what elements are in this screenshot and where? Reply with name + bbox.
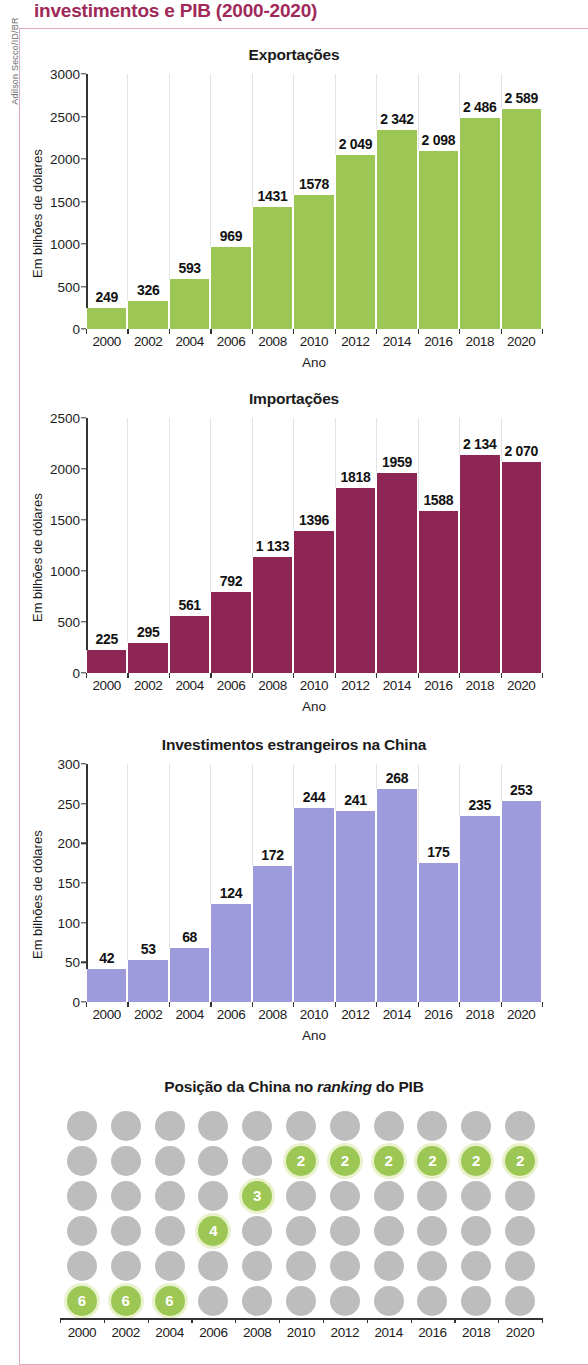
- rank-dot: [111, 1181, 141, 1211]
- x-axis-tick-mark: [127, 329, 128, 334]
- x-axis-tick-label: 2002: [134, 334, 162, 349]
- x-axis-tick-mark: [542, 673, 543, 678]
- y-axis-title: Em bilhões de dólares: [30, 830, 45, 959]
- x-axis-tick-label: 2004: [175, 678, 203, 693]
- bar-value-label: 593: [178, 260, 200, 276]
- y-axis-tick-label: 0: [72, 666, 80, 681]
- chart-panel-investimentos: Investimentos estrangeiros na China 0501…: [0, 736, 588, 1056]
- y-axis-tick-label: 1000: [50, 564, 80, 579]
- y-axis-tick-label: 100: [57, 915, 80, 930]
- y-axis-tick-mark: [81, 570, 86, 571]
- rank-x-tick-mark: [454, 1318, 455, 1323]
- x-axis-tick-mark: [542, 1002, 543, 1007]
- bar-value-label: 969: [220, 228, 242, 244]
- x-axis-tick-mark: [169, 329, 170, 334]
- x-axis-tick-label: 2012: [341, 334, 369, 349]
- x-axis-tick-label: 2010: [300, 1007, 328, 1022]
- bar: [293, 195, 334, 329]
- bar: [459, 118, 500, 329]
- x-axis-tick-label: 2012: [341, 1007, 369, 1022]
- rank-dot: [330, 1286, 360, 1316]
- x-axis-tick-label: 2018: [466, 678, 494, 693]
- x-axis-tick-mark: [542, 329, 543, 334]
- rank-x-tick-mark: [323, 1318, 324, 1323]
- x-axis-tick-mark: [293, 1002, 294, 1007]
- plot-area-investimentos: 0501001502002503004220005320026820041242…: [86, 764, 542, 1002]
- bar: [169, 948, 210, 1002]
- bar: [501, 462, 542, 673]
- x-axis-tick-mark: [252, 1002, 253, 1007]
- x-axis-tick-mark: [86, 1002, 87, 1007]
- bar-value-label: 225: [95, 631, 117, 647]
- rank-dot: [417, 1286, 447, 1316]
- bar-value-label: 561: [178, 597, 200, 613]
- rank-x-tick-mark: [60, 1318, 61, 1323]
- rank-dot-active: 2: [461, 1146, 491, 1176]
- rank-dot: [286, 1216, 316, 1246]
- bar: [501, 801, 542, 1002]
- bar-value-label: 2 342: [380, 111, 414, 127]
- rank-dot: [198, 1111, 228, 1141]
- x-axis-tick-mark: [86, 673, 87, 678]
- rank-x-tick-label: 2010: [287, 1325, 315, 1340]
- rank-dot-active: 2: [417, 1146, 447, 1176]
- x-axis-tick-mark: [293, 673, 294, 678]
- bar-value-label: 124: [220, 885, 242, 901]
- rank-dot: [417, 1181, 447, 1211]
- rank-x-tick-mark: [104, 1318, 105, 1323]
- y-axis-line: [86, 418, 88, 673]
- rank-dot: [286, 1181, 316, 1211]
- rank-dot: [242, 1216, 272, 1246]
- bar: [335, 488, 376, 673]
- y-axis-tick-mark: [81, 73, 86, 74]
- x-axis-tick-mark: [210, 329, 211, 334]
- rank-dot: [67, 1181, 97, 1211]
- x-axis-tick-mark: [459, 329, 460, 334]
- y-axis-tick-label: 300: [57, 757, 80, 772]
- x-axis-tick-label: 2004: [175, 334, 203, 349]
- y-axis-line: [86, 764, 88, 1002]
- bar: [127, 960, 168, 1002]
- x-axis-tick-mark: [210, 1002, 211, 1007]
- bar-value-label: 172: [261, 847, 283, 863]
- y-axis-title: Em bilhões de dólares: [30, 493, 45, 622]
- bar-value-label: 2 070: [504, 443, 538, 459]
- x-axis-tick-label: 2016: [424, 1007, 452, 1022]
- y-axis-tick-mark: [81, 158, 86, 159]
- rank-x-tick-label: 2008: [243, 1325, 271, 1340]
- y-axis-title: Em bilhões de dólares: [30, 149, 45, 278]
- rank-x-tick-label: 2014: [374, 1325, 402, 1340]
- bar: [376, 473, 417, 673]
- bar-value-label: 1396: [299, 512, 329, 528]
- rank-dot-active: 6: [111, 1286, 141, 1316]
- bar-value-label: 2 134: [463, 436, 497, 452]
- bar-value-label: 244: [303, 789, 325, 805]
- x-axis-tick-mark: [501, 329, 502, 334]
- y-axis-tick-label: 50: [65, 955, 80, 970]
- x-axis-tick-label: 2014: [383, 334, 411, 349]
- x-axis-tick-label: 2010: [300, 678, 328, 693]
- chart-title-exportacoes: Exportações: [0, 46, 588, 64]
- rank-dot: [374, 1216, 404, 1246]
- rank-dot: [198, 1181, 228, 1211]
- bar: [335, 155, 376, 329]
- bar-value-label: 2 589: [504, 90, 538, 106]
- rank-dot: [242, 1251, 272, 1281]
- y-axis-tick-mark: [81, 803, 86, 804]
- rank-dot: [67, 1216, 97, 1246]
- x-axis-tick-label: 2000: [93, 678, 121, 693]
- bar-value-label: 1431: [258, 188, 288, 204]
- x-axis-tick-label: 2002: [134, 1007, 162, 1022]
- rank-x-tick-mark: [542, 1318, 543, 1323]
- rank-dot-active: 2: [286, 1146, 316, 1176]
- x-axis-tick-label: 2008: [258, 334, 286, 349]
- ranking-title-part-1: Posição da China no: [164, 1078, 317, 1095]
- x-axis-tick-label: 2018: [466, 334, 494, 349]
- y-axis-tick-mark: [81, 243, 86, 244]
- bar: [86, 969, 127, 1002]
- grid-line: [127, 418, 128, 673]
- bar: [293, 808, 334, 1002]
- y-axis-tick-mark: [81, 116, 86, 117]
- bar: [210, 592, 251, 673]
- plot-area-ranking: 2222223466620002002200420062008201020122…: [60, 1108, 542, 1318]
